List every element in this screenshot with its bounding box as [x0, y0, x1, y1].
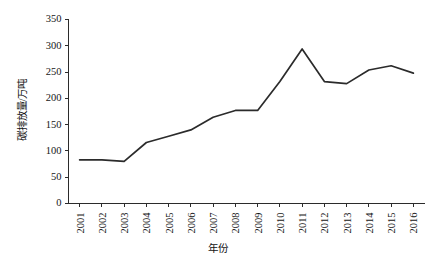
carbon-emission-line-chart: 碳排放量/万吨 050100150200250300350 2001200220…: [0, 0, 436, 271]
x-tick-label: 2006: [186, 213, 197, 234]
x-tick-label: 2015: [386, 213, 397, 234]
y-tick-label: 300: [46, 40, 62, 51]
y-axis-tick-labels: 050100150200250300350: [46, 13, 62, 208]
x-tick-label: 2010: [275, 213, 286, 234]
x-axis-title: 年份: [208, 242, 229, 254]
y-tick-label: 200: [46, 92, 62, 103]
y-axis-title: 碳排放量/万吨: [16, 78, 28, 142]
y-tick-label: 250: [46, 66, 62, 77]
x-tick-label: 2014: [364, 212, 375, 234]
x-tick-label: 2004: [141, 212, 152, 234]
x-axis-tick-labels: 2001200220032004200520062007200820092010…: [75, 212, 420, 234]
y-tick-label: 50: [51, 171, 62, 182]
chart-canvas: 碳排放量/万吨 050100150200250300350 2001200220…: [0, 0, 436, 271]
y-tick-label: 100: [46, 145, 62, 156]
x-tick-label: 2009: [253, 213, 264, 234]
x-tick-label: 2011: [297, 213, 308, 234]
x-tick-label: 2013: [342, 213, 353, 234]
x-tick-label: 2003: [119, 213, 130, 234]
x-tick-label: 2012: [319, 213, 330, 234]
x-tick-label: 2008: [230, 213, 241, 234]
series-line-carbon-emission: [80, 49, 414, 162]
x-tick-label: 2002: [97, 213, 108, 234]
x-tick-label: 2001: [75, 213, 86, 234]
y-tick-label: 0: [56, 197, 61, 208]
x-tick-label: 2005: [164, 213, 175, 234]
x-tick-label: 2016: [408, 213, 419, 234]
y-tick-label: 150: [46, 119, 62, 130]
y-tick-label: 350: [46, 13, 62, 24]
x-tick-label: 2007: [208, 213, 219, 234]
